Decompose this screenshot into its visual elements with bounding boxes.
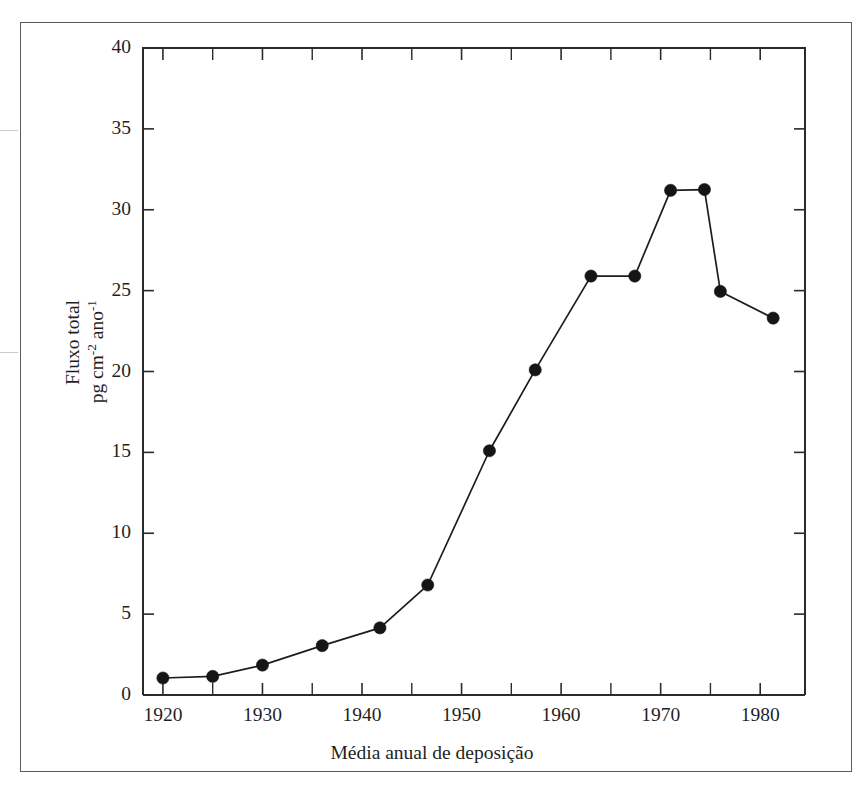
axes [143, 48, 805, 695]
data-point [698, 183, 710, 195]
y-tick-label: 35 [71, 117, 131, 139]
data-point [714, 285, 726, 297]
x-tick-label: 1940 [332, 704, 392, 726]
y-axis-title: Fluxo total pg cm-2 ano-1 [38, 300, 98, 520]
x-tick-label: 1920 [133, 704, 193, 726]
y-axis-title-units2: ano [86, 311, 107, 344]
data-point [157, 672, 169, 684]
data-point [207, 670, 219, 682]
data-markers [157, 183, 779, 684]
x-tick-label: 1960 [531, 704, 591, 726]
data-point [374, 622, 386, 634]
y-tick-label: 40 [71, 36, 131, 58]
x-tick-label: 1930 [232, 704, 292, 726]
plot-frame [143, 48, 805, 695]
y-tick-label: 25 [71, 279, 131, 301]
y-tick-label: 5 [71, 602, 131, 624]
y-axis-title-exp1: -2 [84, 344, 99, 355]
y-tick-label: 0 [71, 683, 131, 705]
y-tick-label: 30 [71, 198, 131, 220]
series-line [163, 190, 773, 678]
line-chart: 0510152025303540 19201930194019501960197… [0, 0, 864, 792]
data-point [256, 659, 268, 671]
data-point [422, 579, 434, 591]
y-axis-title-units: pg cm [86, 355, 107, 403]
data-point [629, 270, 641, 282]
y-axis-title-exp2: -1 [84, 300, 99, 311]
x-tick-label: 1950 [432, 704, 492, 726]
x-tick-label: 1970 [631, 704, 691, 726]
data-point [529, 364, 541, 376]
y-tick-label: 10 [71, 521, 131, 543]
axis-ticks [143, 48, 805, 695]
x-axis-title: Média anual de deposição [0, 742, 864, 764]
data-point [483, 445, 495, 457]
data-point [316, 640, 328, 652]
y-axis-title-line2: pg cm-2 ano-1 [86, 300, 108, 403]
data-point [767, 312, 779, 324]
figure-page: 0510152025303540 19201930194019501960197… [0, 0, 864, 792]
data-point [665, 184, 677, 196]
data-series [163, 190, 773, 678]
y-axis-title-line1: Fluxo total [62, 300, 84, 385]
data-point [585, 270, 597, 282]
x-tick-label: 1980 [730, 704, 790, 726]
